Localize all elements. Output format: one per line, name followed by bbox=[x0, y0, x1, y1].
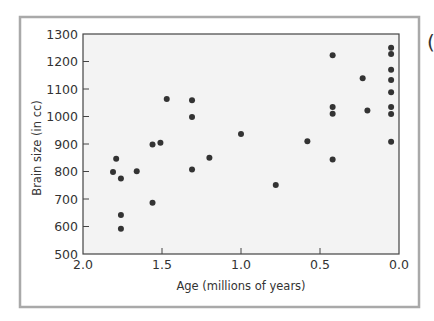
x-tick-label: 1.5 bbox=[152, 257, 172, 272]
data-point bbox=[206, 155, 212, 161]
data-point bbox=[189, 114, 195, 120]
scatter-chart: 5006007008009001000110012001300 2.01.51.… bbox=[0, 0, 434, 321]
data-point bbox=[118, 175, 124, 181]
data-point bbox=[388, 67, 394, 73]
x-axis-title: Age (millions of years) bbox=[176, 279, 305, 293]
data-point bbox=[388, 111, 394, 117]
x-tick-label: 0.5 bbox=[310, 257, 330, 272]
data-point bbox=[330, 52, 336, 58]
x-tick-label: 2.0 bbox=[73, 257, 93, 272]
data-point bbox=[360, 75, 366, 81]
y-tick-label: 800 bbox=[54, 164, 78, 179]
data-point bbox=[118, 212, 124, 218]
y-tick-label: 900 bbox=[54, 137, 78, 152]
data-point bbox=[330, 111, 336, 117]
data-point bbox=[238, 131, 244, 137]
data-point bbox=[157, 140, 163, 146]
y-tick-label: 1300 bbox=[46, 27, 78, 42]
y-tick-label: 600 bbox=[54, 219, 78, 234]
y-tick-label: 1200 bbox=[46, 54, 78, 69]
y-tick-label: 700 bbox=[54, 192, 78, 207]
data-point bbox=[388, 45, 394, 51]
data-point bbox=[150, 142, 156, 148]
data-point bbox=[189, 167, 195, 173]
data-point bbox=[330, 156, 336, 162]
data-point bbox=[273, 182, 279, 188]
data-point bbox=[388, 77, 394, 83]
data-point bbox=[388, 104, 394, 110]
data-point bbox=[330, 104, 336, 110]
data-point bbox=[164, 96, 170, 102]
data-point bbox=[118, 226, 124, 232]
data-point bbox=[150, 200, 156, 206]
data-point bbox=[364, 107, 370, 113]
data-point bbox=[189, 97, 195, 103]
data-point bbox=[304, 138, 310, 144]
data-point bbox=[113, 156, 119, 162]
y-tick-label: 1000 bbox=[46, 109, 78, 124]
plot-area bbox=[83, 34, 399, 254]
y-tick-label: 1100 bbox=[46, 82, 78, 97]
y-axis-title: Brain size (in cc) bbox=[30, 100, 44, 196]
x-tick-label: 1.0 bbox=[231, 257, 251, 272]
data-point bbox=[134, 168, 140, 174]
data-point bbox=[388, 139, 394, 145]
data-point bbox=[388, 89, 394, 95]
data-point bbox=[388, 51, 394, 57]
clipped-caption-glyph: ( bbox=[427, 30, 434, 54]
data-point bbox=[110, 169, 116, 175]
x-tick-label: 0.0 bbox=[389, 257, 409, 272]
